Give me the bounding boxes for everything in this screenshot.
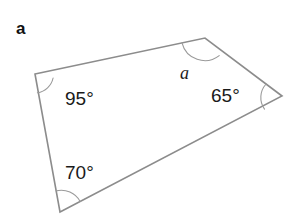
quadrilateral-outline <box>35 38 282 212</box>
angle-label-top-unknown: a <box>180 64 189 82</box>
angle-label-right: 65° <box>211 86 240 105</box>
angle-diagram-figure: a 95° a 65° 70° <box>0 0 294 222</box>
angle-arc-bottom <box>56 190 80 201</box>
quadrilateral-diagram-svg <box>0 0 294 222</box>
angle-label-left: 95° <box>65 89 94 108</box>
angle-label-bottom: 70° <box>65 163 94 182</box>
part-label: a <box>16 20 25 37</box>
angle-arc-left <box>37 78 53 93</box>
